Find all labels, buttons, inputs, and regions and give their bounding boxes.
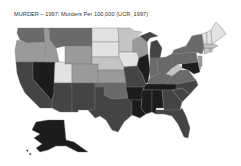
state-MT xyxy=(49,28,92,48)
state-AZ xyxy=(52,83,72,112)
state-CT xyxy=(204,48,210,54)
state-ND xyxy=(92,28,119,42)
state-NY xyxy=(172,34,204,54)
state-AR xyxy=(126,87,144,100)
state-FL xyxy=(156,108,190,138)
state-KS xyxy=(98,70,126,83)
state-TN xyxy=(144,84,178,90)
state-NM xyxy=(72,83,95,112)
state-RI xyxy=(210,48,213,52)
state-MA xyxy=(204,44,218,48)
state-AK xyxy=(32,120,88,152)
state-UT xyxy=(54,62,72,83)
us-choropleth-map xyxy=(0,0,241,166)
state-ME xyxy=(211,22,226,44)
state-WA xyxy=(17,28,45,43)
state-SD xyxy=(92,42,119,57)
state-OR xyxy=(15,40,46,62)
state-CO xyxy=(72,64,98,83)
state-WY xyxy=(65,46,92,64)
state-AK-islands xyxy=(26,150,31,155)
